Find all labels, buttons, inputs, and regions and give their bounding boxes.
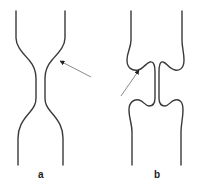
panel-a-left-wall [16, 11, 36, 165]
panel-a-right-wall [45, 11, 65, 165]
diagram-canvas [0, 0, 200, 187]
panel-b-shape [127, 11, 184, 165]
panel-b-right-wall [159, 11, 184, 165]
panel-b-left-wall [127, 11, 155, 165]
panel-a-label: a [38, 170, 44, 180]
panel-a-shape [16, 11, 65, 165]
panel-b-label: b [154, 170, 160, 180]
panel-b-arrow [121, 70, 139, 96]
panel-a-arrow [60, 61, 91, 77]
